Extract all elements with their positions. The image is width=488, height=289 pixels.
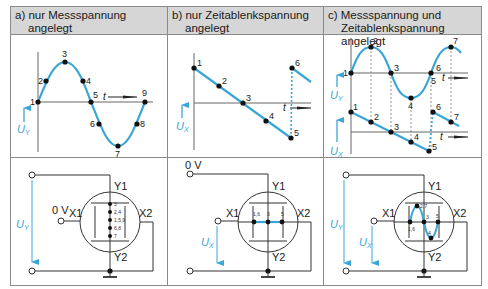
svg-text:4: 4 [408,101,413,111]
svg-text:UX: UX [330,145,343,158]
svg-text:3: 3 [114,201,117,207]
svg-text:X1: X1 [226,207,239,219]
svg-text:7: 7 [453,36,458,46]
svg-text:X1: X1 [69,207,82,219]
svg-text:3: 3 [394,122,399,132]
svg-text:Y2: Y2 [272,251,285,263]
svg-text:6: 6 [295,58,300,68]
svg-text:2,7: 2,7 [420,203,427,209]
svg-text:6: 6 [436,102,441,112]
svg-text:5: 5 [432,142,437,152]
circuit-c [343,172,467,277]
svg-text:1: 1 [343,68,348,78]
svg-text:1,6: 1,6 [253,211,260,217]
svg-text:2: 2 [38,76,43,86]
svg-text:6: 6 [436,63,441,73]
svg-text:5: 5 [436,213,439,219]
svg-text:6,8: 6,8 [114,225,121,231]
graph-c: t t 1 2 3 4 5 6 7 1 [330,36,468,158]
svg-text:Y2: Y2 [114,251,127,263]
svg-text:5: 5 [281,211,284,217]
circuit-a [29,172,153,277]
svg-text:X2: X2 [139,207,152,219]
svg-text:UY: UY [330,218,344,231]
svg-text:1,6: 1,6 [408,226,415,232]
t-label: t [103,91,107,102]
svg-text:0 V: 0 V [185,159,202,171]
svg-text:3: 3 [246,93,251,103]
graph-b: t 1 2 3 4 5 6 UX [176,53,311,150]
table-grid [11,7,482,286]
svg-text:2: 2 [374,112,379,122]
svg-text:7: 7 [454,112,459,122]
svg-text:5: 5 [93,90,98,100]
svg-text:3: 3 [267,211,270,217]
svg-text:9: 9 [142,88,147,98]
svg-text:t: t [440,131,444,142]
circuit-a-labels: 3 2,4 1,5,9 6,8 7 Y1 Y2 X1 X2 0 V UY [16,180,152,263]
svg-text:1,5,9: 1,5,9 [114,217,125,223]
svg-text:1: 1 [353,102,358,112]
svg-text:4: 4 [428,230,431,236]
svg-text:1: 1 [30,97,35,107]
svg-text:UY: UY [16,218,30,231]
svg-text:UY: UY [330,89,344,102]
svg-text:UX: UX [201,236,214,249]
svg-text:8: 8 [140,119,145,129]
graph-a: t 1 2 3 4 5 6 7 8 9 UY [17,49,153,159]
svg-text:2,4: 2,4 [114,209,121,215]
svg-text:Y1: Y1 [428,180,441,192]
svg-text:Y1: Y1 [114,180,127,192]
svg-text:5: 5 [294,128,299,138]
svg-text:7: 7 [114,233,117,239]
svg-text:UY: UY [17,123,31,136]
svg-text:4: 4 [414,132,419,142]
svg-text:4: 4 [86,76,91,86]
svg-text:Y2: Y2 [428,251,441,263]
circuit-b-labels: 1,6 3 5 Y1 Y2 X1 X2 0 V UX [185,159,310,263]
svg-text:7: 7 [115,149,120,159]
oscilloscope-diagram: t 1 2 3 4 5 6 7 8 9 UY t [0,0,488,289]
svg-text:UX: UX [359,236,372,249]
svg-text:2: 2 [373,36,378,46]
circuit-b [187,171,311,277]
svg-text:t: t [442,72,446,83]
svg-text:3: 3 [62,49,67,59]
svg-text:3: 3 [426,214,429,220]
svg-text:3: 3 [394,63,399,73]
svg-text:1: 1 [197,58,202,68]
svg-text:0 V: 0 V [52,204,69,216]
svg-text:X2: X2 [453,207,466,219]
svg-text:2: 2 [222,76,227,86]
svg-text:5: 5 [431,76,436,86]
svg-text:t: t [283,102,287,113]
svg-text:UX: UX [176,120,189,133]
svg-text:X1: X1 [382,207,395,219]
svg-text:6: 6 [90,119,95,129]
svg-text:4: 4 [269,111,274,121]
svg-text:Y1: Y1 [272,180,285,192]
svg-text:X2: X2 [297,207,310,219]
